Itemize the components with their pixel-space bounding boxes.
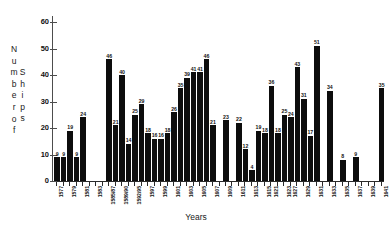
bar-value-label: 23 [223,114,229,120]
bar-value-label: 12 [243,143,249,149]
bar: 24 [79,117,87,181]
x-axis-tick-label: 1603 [188,186,194,197]
y-axis-title-char: p [20,102,25,114]
plot-area: 0102030405060 99199244621401425291816161… [52,16,384,182]
y-axis-title-char: o [12,114,17,126]
x-axis-tick-label: 1611 [240,186,246,197]
bar: 34 [326,91,334,181]
bar-value-label: 29 [139,98,145,104]
bar-value-label: 9 [354,151,357,157]
bar-value-label: 31 [301,92,307,98]
bar-rect [223,120,229,181]
bar-value-label: 46 [204,53,210,59]
x-axis-tick-label: 1635 [344,186,350,197]
x-axis-tick-label: 1581 [84,186,90,197]
x-axis-tick-label: 1601 [175,186,181,197]
y-axis-title-char: f [13,125,15,137]
bar-rect [379,88,385,181]
bar-value-label: 22 [236,116,242,122]
bar-rect [353,157,359,181]
bar: 9 [352,157,360,181]
y-axis-title-char: e [12,90,17,102]
bar-value-label: 34 [327,84,333,90]
y-axis-title-char: m [11,67,18,79]
bar-rect [340,160,346,181]
y-axis-title-char: h [20,79,25,91]
y-axis-title-col-1: Numberof [11,44,18,137]
x-axis-tick-label: 1609 [227,186,233,197]
x-axis-tick-labels: 15771579158115831585/871589/901592/95159… [52,186,384,212]
bar-value-label: 19 [67,124,73,130]
bar-value-label: 9 [56,151,59,157]
bar-value-label: 21 [210,119,216,125]
x-axis-tick-label: 1577 [58,186,64,197]
y-axis-tick-label: 10 [41,150,49,159]
x-axis-tick-label: 1589/90 [123,186,129,204]
bar: 8 [339,160,347,181]
y-axis-title-char: u [12,56,17,68]
bar-value-label: 43 [294,61,300,67]
bar: 21 [209,125,217,181]
x-axis-tick-label: 1585/87 [110,186,116,204]
y-axis-title-col-2: Ships [20,44,26,125]
bar-value-label: 8 [341,153,344,159]
bar: 51 [313,46,321,181]
bar-value-label: 51 [314,39,320,45]
y-axis-title: Numberof Ships [4,44,32,176]
y-axis-tick-label: 0 [45,176,49,185]
bar-value-label: 9 [62,151,65,157]
x-axis-tick-label: 1637 [357,186,363,197]
x-axis-tick-label: 1605 [201,186,207,197]
bar-value-label: 16 [152,132,158,138]
x-axis-tick-label: 1615 [266,186,272,197]
x-axis-tick-label: 1641 [383,186,389,197]
bar: 35 [378,88,386,181]
y-axis-tick-label: 20 [41,123,49,132]
x-axis-tick-label: 1639 [370,186,376,197]
x-axis-tick-label: 1579 [71,186,77,197]
x-axis-tick-label: 1631 [318,186,324,197]
x-axis-tick-label: 1629 [305,186,311,197]
bar-value-label: 25 [282,108,288,114]
x-axis-tick-label: 1623 [286,186,292,197]
bar-value-label: 4 [250,164,253,170]
y-axis-tick-label: 50 [41,44,49,53]
y-axis-tick-label: 30 [41,97,49,106]
bar-value-label: 24 [80,111,86,117]
bar-value-label: 19 [256,124,262,130]
bar-rect [314,46,320,181]
bar-rect [210,125,216,181]
y-axis-tick-label: 60 [41,17,49,26]
y-axis-title-char: r [13,102,16,114]
bar-series: 9919924462140142529181616182635394141462… [53,16,384,182]
bar-value-label: 46 [106,53,112,59]
x-axis-tick-label: 1627 [292,186,298,197]
y-axis-title-char: S [20,67,26,79]
bar-value-label: 18 [145,127,151,133]
y-axis-title-char: N [11,44,17,56]
bar-value-label: 36 [269,79,275,85]
bar: 23 [222,120,230,181]
x-axis-tick-label: 1583 [97,186,103,197]
x-axis-tick-label: 1607 [214,186,220,197]
x-axis-tick-label: 1621 [273,186,279,197]
x-axis-title: Years [0,212,392,222]
y-axis-title-char: s [20,113,24,125]
bar-rect [80,117,86,181]
x-axis-tick-label: 1597 [149,186,155,197]
bar-chart: Numberof Ships 0102030405060 99199244621… [0,0,392,229]
x-axis-tick-label: 1613 [253,186,259,197]
bar-value-label: 41 [191,66,197,72]
x-axis-tick-label: 1592/95 [136,186,142,204]
bar-value-label: 40 [119,69,125,75]
y-axis-title-char: b [12,79,17,91]
y-axis-title-char: i [22,90,24,102]
y-axis-tick-label: 40 [41,70,49,79]
bar-value-label: 35 [379,82,385,88]
bar-rect [327,91,333,181]
x-axis-tick-label: 1599 [162,186,168,197]
bar-value-label: 9 [75,151,78,157]
x-axis-tick-label: 1633 [331,186,337,197]
